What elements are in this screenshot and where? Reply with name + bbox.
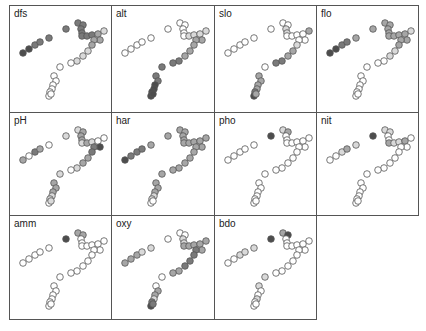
site-point xyxy=(48,198,55,205)
scatter-plot xyxy=(10,6,113,114)
site-point xyxy=(150,301,157,308)
scatter-plot xyxy=(215,216,318,321)
site-point xyxy=(176,58,183,65)
site-point xyxy=(89,149,96,156)
panel-ph: pH xyxy=(9,112,112,216)
site-point xyxy=(37,249,44,256)
site-point xyxy=(187,48,194,55)
site-point xyxy=(165,236,172,243)
site-point xyxy=(392,155,399,162)
site-point xyxy=(294,252,301,259)
scatter-plot xyxy=(215,6,318,114)
site-point xyxy=(122,260,129,267)
site-point xyxy=(148,142,155,149)
site-point xyxy=(128,153,135,160)
site-point xyxy=(197,138,204,145)
site-point xyxy=(203,28,210,35)
site-point xyxy=(159,64,166,71)
site-point xyxy=(20,260,27,267)
site-point xyxy=(20,157,27,164)
site-point xyxy=(95,31,102,38)
site-point xyxy=(80,160,87,167)
site-point xyxy=(128,46,135,53)
site-point xyxy=(294,149,301,156)
site-point xyxy=(242,146,249,153)
site-point xyxy=(225,50,232,57)
site-point xyxy=(46,245,53,252)
site-point xyxy=(68,60,75,67)
scatter-plot xyxy=(112,113,216,217)
site-point xyxy=(370,26,377,33)
site-point xyxy=(268,26,275,33)
site-point xyxy=(85,48,92,55)
site-point xyxy=(279,268,286,275)
panel-alt: alt xyxy=(111,5,215,113)
panel-title: oxy xyxy=(116,218,132,230)
site-point xyxy=(191,149,198,156)
site-point xyxy=(306,135,313,142)
site-point xyxy=(165,133,172,140)
site-point xyxy=(80,53,87,60)
site-point xyxy=(170,60,177,67)
site-point xyxy=(176,165,183,172)
site-point xyxy=(262,171,269,178)
site-point xyxy=(402,138,409,145)
site-point xyxy=(285,160,292,167)
site-point xyxy=(191,252,198,259)
site-point xyxy=(20,50,27,57)
site-point xyxy=(262,64,269,71)
site-point xyxy=(396,149,403,156)
panel-title: har xyxy=(116,115,130,127)
site-point xyxy=(74,268,81,275)
site-point xyxy=(242,39,249,46)
site-point xyxy=(139,249,146,256)
site-point xyxy=(353,142,360,149)
site-point xyxy=(408,28,415,35)
site-point xyxy=(333,153,340,160)
site-point xyxy=(187,155,194,162)
site-point xyxy=(285,263,292,270)
site-point xyxy=(273,60,280,67)
site-point xyxy=(294,42,301,49)
site-point xyxy=(128,256,135,263)
site-point xyxy=(300,241,307,248)
panel-title: dfs xyxy=(14,8,27,20)
site-point xyxy=(225,260,232,267)
site-point xyxy=(273,167,280,174)
panel-flo: flo xyxy=(316,5,419,113)
site-point xyxy=(344,146,351,153)
site-point xyxy=(101,238,108,245)
site-point xyxy=(262,274,269,281)
site-point xyxy=(26,256,33,263)
scatter-plot xyxy=(317,6,420,114)
site-point xyxy=(327,157,334,164)
site-point xyxy=(197,31,204,38)
site-point xyxy=(231,46,238,53)
site-point xyxy=(139,146,146,153)
site-point xyxy=(203,135,210,142)
site-point xyxy=(273,270,280,277)
site-point xyxy=(95,138,102,145)
scatter-plot xyxy=(317,113,420,217)
site-point xyxy=(37,146,44,153)
panel-pho: pho xyxy=(214,112,317,216)
site-point xyxy=(68,167,75,174)
panel-slo: slo xyxy=(214,5,317,113)
site-point xyxy=(148,35,155,42)
site-point xyxy=(375,167,382,174)
site-point xyxy=(89,252,96,259)
site-point xyxy=(26,153,33,160)
site-point xyxy=(37,39,44,46)
site-point xyxy=(279,165,286,172)
site-point xyxy=(46,142,53,149)
site-point xyxy=(203,238,210,245)
site-point xyxy=(253,198,260,205)
site-point xyxy=(231,153,238,160)
site-point xyxy=(122,157,129,164)
site-point xyxy=(370,133,377,140)
panel-dfs: dfs xyxy=(9,5,112,113)
site-point xyxy=(182,160,189,167)
panel-title: amm xyxy=(14,218,36,230)
site-point xyxy=(122,50,129,57)
site-point xyxy=(355,198,362,205)
